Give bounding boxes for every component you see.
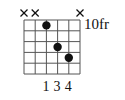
finger-label: 4	[65, 80, 72, 94]
muted-string-icon	[21, 10, 28, 17]
finger-label: 3	[54, 80, 61, 94]
fret-position-label: 10fr	[84, 17, 109, 32]
finger-label: 1	[42, 80, 49, 94]
chord-diagram	[0, 0, 125, 100]
muted-string-icon	[32, 10, 39, 17]
finger-dot	[53, 43, 61, 51]
fretboard-grid	[24, 20, 80, 74]
muted-markers	[21, 10, 84, 17]
finger-dot	[42, 21, 50, 29]
finger-dot	[65, 54, 73, 62]
muted-string-icon	[77, 10, 84, 17]
